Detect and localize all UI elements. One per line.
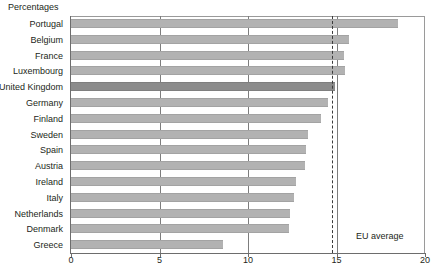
category-label-sweden: Sweden: [30, 130, 63, 140]
category-label-greece: Greece: [33, 240, 63, 250]
bar-greece: [71, 240, 223, 249]
x-tick-label: 10: [243, 255, 253, 265]
category-label-netherlands: Netherlands: [14, 209, 63, 219]
x-tick-label: 5: [157, 255, 162, 265]
category-label-denmark: Denmark: [26, 224, 63, 234]
bar-sweden: [71, 130, 308, 139]
bar-france: [71, 51, 344, 60]
bar-austria: [71, 161, 305, 170]
bar-chart: Percentages PortugalBelgiumFranceLuxembo…: [0, 0, 448, 270]
eu-average-line: [332, 16, 333, 253]
x-tick-label: 20: [420, 255, 430, 265]
bar-row: [71, 95, 425, 111]
eu-average-label: EU average: [356, 231, 404, 241]
bar-spain: [71, 145, 306, 154]
x-tick-label: 0: [68, 255, 73, 265]
bar-row: [71, 32, 425, 48]
bar-row: [71, 206, 425, 222]
bar-netherlands: [71, 209, 290, 218]
category-label-united-kingdom: United Kingdom: [0, 82, 63, 92]
category-label-spain: Spain: [40, 145, 63, 155]
bar-luxembourg: [71, 66, 345, 75]
bar-row: [71, 48, 425, 64]
bar-germany: [71, 98, 328, 107]
bar-row: [71, 127, 425, 143]
x-tick-label: 15: [331, 255, 341, 265]
bar-ireland: [71, 177, 296, 186]
plot-area: EU average: [71, 16, 425, 253]
bar-row: [71, 63, 425, 79]
bar-finland: [71, 114, 321, 123]
bar-row: [71, 142, 425, 158]
bar-row: [71, 174, 425, 190]
bar-portugal: [71, 19, 398, 28]
bar-row: [71, 79, 425, 95]
bar-row: [71, 16, 425, 32]
bar-row: [71, 111, 425, 127]
bar-italy: [71, 193, 294, 202]
bar-belgium: [71, 35, 349, 44]
category-label-austria: Austria: [35, 161, 63, 171]
category-label-germany: Germany: [26, 98, 63, 108]
chart-title: Percentages: [8, 2, 59, 13]
bar-denmark: [71, 224, 289, 233]
category-label-portugal: Portugal: [29, 19, 63, 29]
category-label-belgium: Belgium: [30, 35, 63, 45]
bar-row: [71, 158, 425, 174]
category-label-finland: Finland: [33, 114, 63, 124]
category-axis-labels: PortugalBelgiumFranceLuxembourgUnited Ki…: [0, 16, 67, 253]
category-label-france: France: [35, 51, 63, 61]
category-label-luxembourg: Luxembourg: [13, 66, 63, 76]
bar-united-kingdom: [71, 82, 335, 91]
bar-row: [71, 190, 425, 206]
category-label-ireland: Ireland: [35, 177, 63, 187]
category-label-italy: Italy: [46, 193, 63, 203]
